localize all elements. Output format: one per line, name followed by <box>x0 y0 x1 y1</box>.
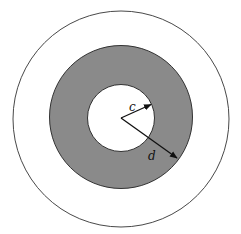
concentric-circles-diagram: c d <box>0 0 241 234</box>
label-c: c <box>129 100 136 114</box>
label-d: d <box>148 149 156 163</box>
